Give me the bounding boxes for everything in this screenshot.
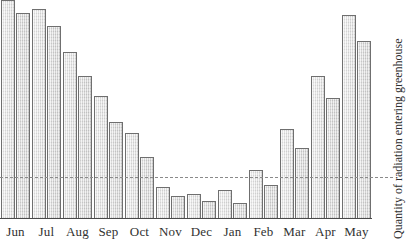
bar-aug-1 [63, 52, 77, 218]
bar-nov-2 [171, 196, 185, 218]
plot-area [0, 0, 372, 218]
bar-may-1 [342, 15, 356, 218]
y-axis-title: Quantity of radiation entering greenhous… [390, 0, 406, 245]
x-tick-label-oct: Oct [124, 222, 155, 242]
bar-dec-1 [187, 194, 201, 218]
x-axis-line [0, 218, 372, 219]
x-tick-label-feb: Feb [248, 222, 279, 242]
bar-may-2 [357, 41, 371, 218]
x-axis-tick-labels: JunJulAugSepOctNovDecJanFebMarAprMay [0, 222, 372, 245]
bar-apr-1 [311, 76, 325, 218]
bar-jun-2 [16, 13, 30, 218]
x-tick-label-jul: Jul [31, 222, 62, 242]
bar-nov-1 [156, 187, 170, 218]
x-tick-label-mar: Mar [279, 222, 310, 242]
bar-apr-2 [326, 98, 340, 218]
bar-sep-2 [109, 122, 123, 218]
x-tick-label-may: May [341, 222, 372, 242]
x-tick-label-dec: Dec [186, 222, 217, 242]
y-axis-title-text: Quantity of radiation entering greenhous… [390, 0, 406, 245]
bar-jul-1 [32, 9, 46, 218]
bar-jan-2 [233, 203, 247, 218]
x-tick-label-sep: Sep [93, 222, 124, 242]
bar-mar-2 [295, 148, 309, 218]
x-tick-label-nov: Nov [155, 222, 186, 242]
bar-dec-2 [202, 201, 216, 218]
x-tick-label-apr: Apr [310, 222, 341, 242]
bar-jul-2 [47, 26, 61, 218]
x-tick-label-jun: Jun [0, 222, 31, 242]
threshold-dashed-line [0, 177, 393, 178]
bar-feb-2 [264, 185, 278, 218]
x-tick-label-aug: Aug [62, 222, 93, 242]
x-tick-label-jan: Jan [217, 222, 248, 242]
bar-jun-1 [1, 0, 15, 218]
bar-mar-1 [280, 129, 294, 218]
bar-sep-1 [94, 96, 108, 218]
bar-jan-1 [218, 190, 232, 218]
bar-oct-2 [140, 157, 154, 218]
bar-oct-1 [125, 133, 139, 218]
bar-aug-2 [78, 76, 92, 218]
